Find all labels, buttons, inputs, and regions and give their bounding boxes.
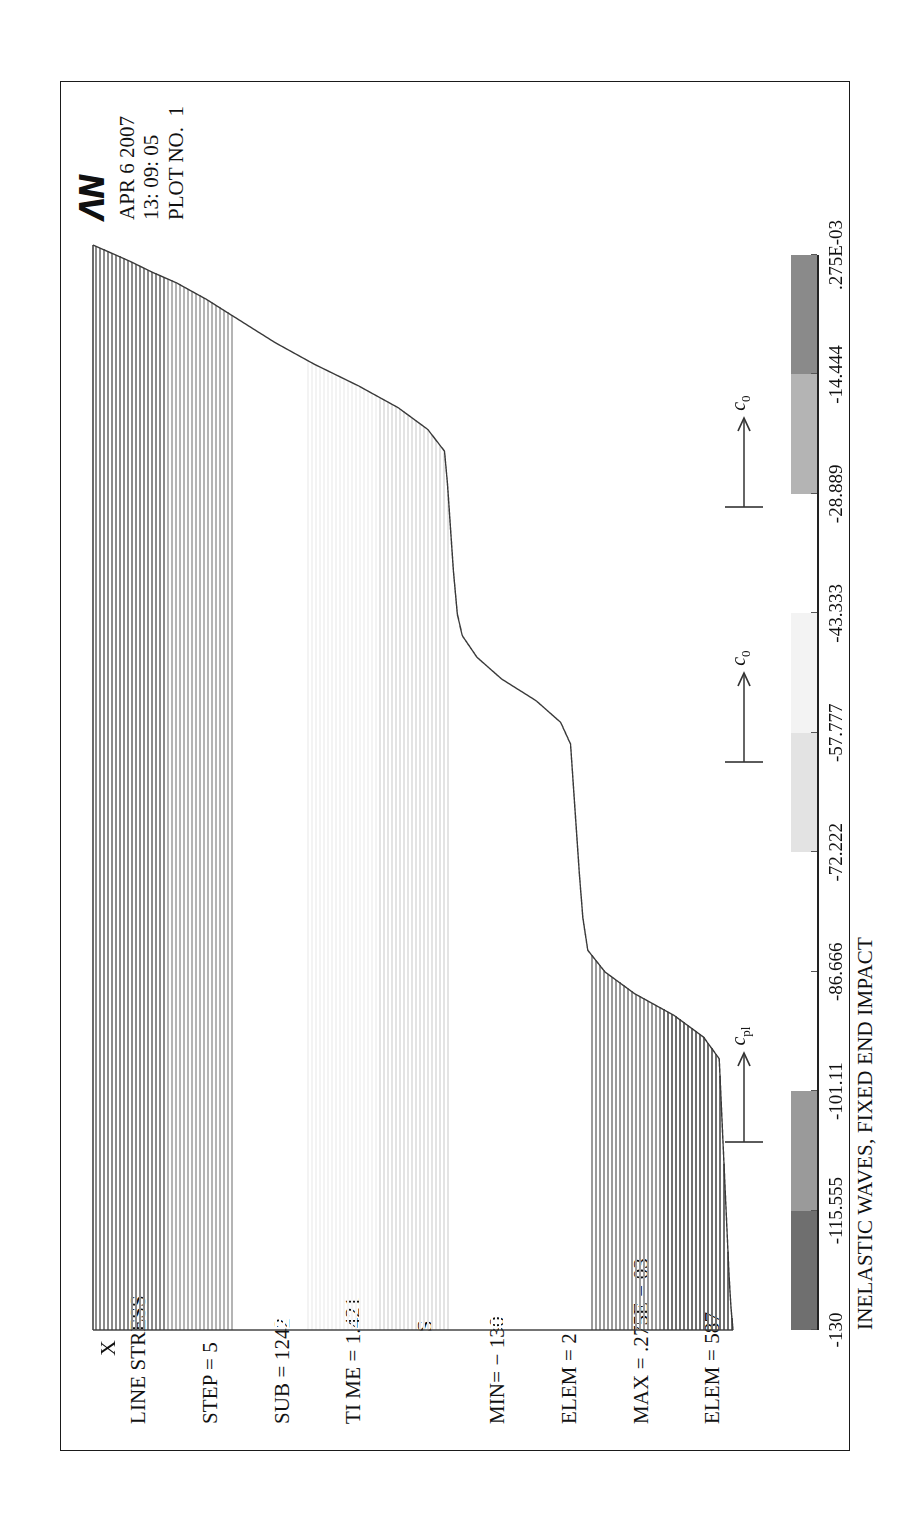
colorbar-band-0 [791,1210,817,1329]
arrow-icon [711,995,781,1145]
colorbar-band-7 [791,374,817,493]
arrow-icon [711,360,781,510]
c-pl-arrow [711,995,785,1145]
colorbar-tick-3 [811,970,817,971]
c-0-arrow-right [711,360,785,510]
stress-colorbar [791,255,817,1330]
colorbar-tick-0 [811,1329,817,1330]
colorbar-tick-4 [811,851,817,852]
colorbar-label-1: -115.555 [825,1155,847,1265]
plot-title: INELASTIC WAVES, FIXED END IMPACT [853,937,878,1330]
colorbar-tick-5 [811,731,817,732]
colorbar-tick-7 [811,492,817,493]
colorbar-axis-line [817,255,819,1330]
plot-frame: LINE STRESS STEP = 5 SUB = 1242 TI ME = … [60,81,850,1451]
colorbar-tick-9 [811,254,817,255]
colorbar-band-5 [791,613,817,732]
colorbar-band-8 [791,255,817,374]
colorbar-band-3 [791,852,817,971]
colorbar-band-4 [791,732,817,851]
c-0-arrow-left-label: c0 [727,650,754,665]
colorbar-tick-2 [811,1090,817,1091]
colorbar-label-7: -28.889 [825,438,847,548]
colorbar-band-1 [791,1091,817,1210]
colorbar-label-9: .275E-03 [825,200,847,310]
colorbar-tick-8 [811,373,817,374]
colorbar-label-2: -101.11 [825,1036,847,1146]
colorbar-label-6: -43.333 [825,558,847,668]
colorbar-tick-6 [811,612,817,613]
x-axis-label: X [95,1340,121,1356]
colorbar-tick-1 [811,1209,817,1210]
colorbar-label-0: -130 [825,1275,847,1385]
rotated-plot-canvas: LINE STRESS STEP = 5 SUB = 1242 TI ME = … [60,81,850,1451]
colorbar-label-3: -86.666 [825,916,847,1026]
colorbar-label-8: -14.444 [825,319,847,429]
c-pl-arrow-label: cpl [727,1026,754,1045]
arrow-icon [711,615,781,765]
c-0-arrow-right-label: c0 [727,395,754,410]
colorbar-band-6 [791,493,817,612]
c-0-arrow-left [711,615,785,765]
ansys-plot-page: LINE STRESS STEP = 5 SUB = 1242 TI ME = … [0,0,909,1531]
colorbar-label-4: -72.222 [825,797,847,907]
colorbar-band-2 [791,971,817,1090]
colorbar-label-5: -57.777 [825,677,847,787]
